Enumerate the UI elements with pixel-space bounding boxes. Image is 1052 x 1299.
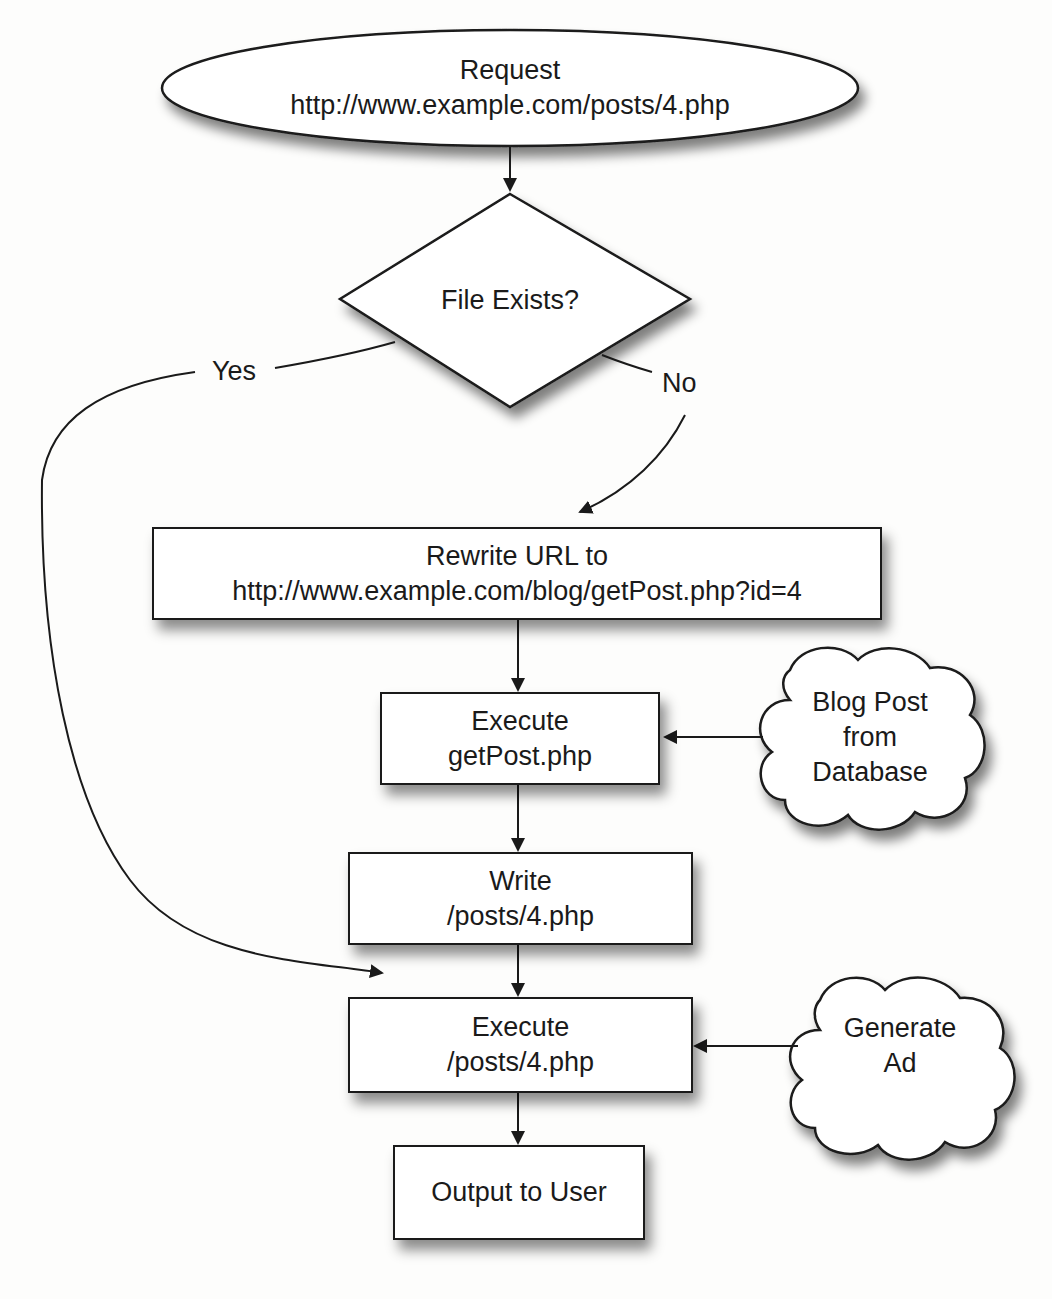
blog-post-line1: Blog Post xyxy=(812,685,928,720)
write-post-title: Write xyxy=(489,864,552,899)
edge-yes-continued xyxy=(42,372,382,973)
execute-post-title: Execute xyxy=(472,1010,570,1045)
edge-no-continued xyxy=(580,415,685,512)
request-title: Request xyxy=(460,53,561,88)
rewrite-url: http://www.example.com/blog/getPost.php?… xyxy=(232,574,802,609)
output-to-user-box: Output to User xyxy=(393,1145,645,1240)
yes-label: Yes xyxy=(208,356,260,387)
generate-ad-node: Generate Ad xyxy=(810,1008,990,1084)
blog-post-line3: Database xyxy=(812,755,928,790)
execute-getpost-title: Execute xyxy=(471,704,569,739)
request-url: http://www.example.com/posts/4.php xyxy=(290,88,730,123)
rewrite-url-box: Rewrite URL to http://www.example.com/bl… xyxy=(152,527,882,620)
execute-getpost-box: Execute getPost.php xyxy=(380,692,660,785)
diagram-canvas xyxy=(0,0,1052,1299)
decision-node: File Exists? xyxy=(390,280,630,320)
generate-ad-line2: Ad xyxy=(883,1046,916,1081)
no-label: No xyxy=(658,368,701,399)
execute-post-file: /posts/4.php xyxy=(447,1045,594,1080)
write-post-box: Write /posts/4.php xyxy=(348,852,693,945)
output-text: Output to User xyxy=(431,1175,607,1210)
decision-text: File Exists? xyxy=(441,283,579,318)
blog-post-line2: from xyxy=(843,720,897,755)
execute-getpost-file: getPost.php xyxy=(448,739,592,774)
edge-yes xyxy=(275,342,395,368)
request-node: Request http://www.example.com/posts/4.p… xyxy=(170,50,850,126)
write-post-file: /posts/4.php xyxy=(447,899,594,934)
execute-post-box: Execute /posts/4.php xyxy=(348,997,693,1093)
rewrite-title: Rewrite URL to xyxy=(426,539,608,574)
generate-ad-line1: Generate xyxy=(844,1011,957,1046)
edge-no xyxy=(602,355,652,372)
blog-post-db-node: Blog Post from Database xyxy=(780,682,960,792)
